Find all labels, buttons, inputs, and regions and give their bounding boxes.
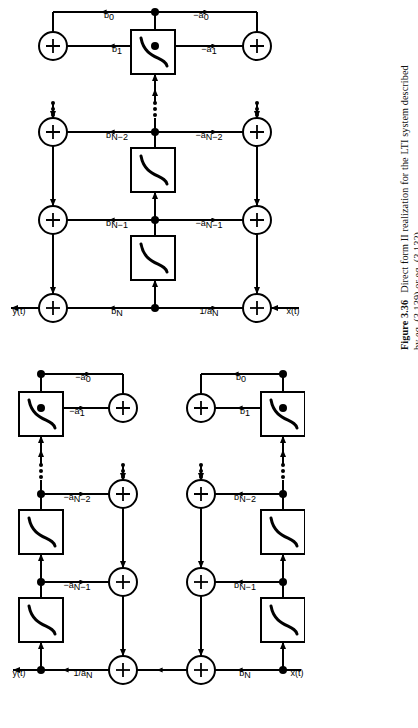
adder [109, 568, 137, 596]
adder [109, 394, 137, 422]
direct-form-i-diagram: 1/aN −aN−1 −aN−2 −a1 −a0 bN bN−1 bN−2 b1… [5, 366, 305, 706]
figure-3-36-caption-line-2: by eq. (3.139) or eq. (3.132). [411, 229, 418, 350]
figure-3-36-block: bN 1/aN bN−1 −aN−1 bN−2 −aN−2 b1 −a1 b0 … [0, 0, 418, 364]
adder [39, 294, 67, 322]
figure-3-35-diagram-rotation-stage: 1/aN −aN−1 −aN−2 −a1 −a0 bN bN−1 bN−2 b1… [5, 366, 305, 706]
gain-label-b0: b0 [236, 372, 246, 384]
adder [39, 206, 67, 234]
gain-label-minus-a0: −a0 [75, 372, 90, 384]
adder [109, 656, 137, 684]
adder [187, 394, 215, 422]
adders [109, 394, 215, 684]
gain-label-bN-1: bN−1 [234, 580, 256, 592]
integrator-boxes [131, 30, 175, 280]
gain-label-inv-aN: 1/aN [199, 306, 218, 318]
integrator-block [19, 392, 63, 436]
figure-3-36-caption-line-1: Figure 3.36Direct form II realization fo… [398, 65, 411, 350]
integrator-block [261, 598, 305, 642]
adder [187, 480, 215, 508]
gain-label-minus-a0: −a0 [193, 10, 208, 22]
gain-label-minus-a1: −a1 [201, 44, 216, 56]
input-label-xt: x(t) [291, 668, 304, 678]
gain-label-bN-2: bN−2 [234, 492, 256, 504]
gain-label-bN: bN [239, 668, 251, 680]
integrator-block [261, 510, 305, 554]
gain-label-minus-aN-1: −aN−1 [195, 218, 222, 230]
gain-labels: 1/aN −aN−1 −aN−2 −a1 −a0 bN bN−1 bN−2 b1… [63, 372, 255, 680]
integrator-block [19, 598, 63, 642]
gain-label-bN-2: bN−2 [106, 130, 128, 142]
integrator-boxes-feedback [19, 392, 63, 642]
ellipsis-dots [51, 101, 259, 117]
integrator-block [131, 30, 175, 74]
ellipsis-dots [39, 463, 285, 479]
gain-label-bN-1: bN−1 [106, 218, 128, 230]
gain-label-minus-aN-2: −aN−2 [195, 130, 222, 142]
figure-3-35-block: 1/aN −aN−1 −aN−2 −a1 −a0 bN bN−1 bN−2 b1… [0, 364, 418, 728]
scanned-textbook-page: bN 1/aN bN−1 −aN−1 bN−2 −aN−2 b1 −a1 b0 … [0, 0, 418, 728]
adder [187, 656, 215, 684]
input-label-xt: x(t) [287, 306, 300, 316]
gain-label-bN: bN [111, 306, 123, 318]
direct-form-ii-diagram: bN 1/aN bN−1 −aN−1 bN−2 −aN−2 b1 −a1 b0 … [5, 2, 305, 342]
integrator-block [131, 236, 175, 280]
gain-label-minus-a1: −a1 [69, 406, 84, 418]
integrator-boxes-feedforward [261, 392, 305, 642]
gain-label-b1: b1 [240, 406, 250, 418]
figure-3-36-caption-text-1: Direct form II realization for the LTI s… [399, 65, 410, 293]
gain-label-b1: b1 [112, 44, 122, 56]
adder [243, 118, 271, 146]
integrator-block [261, 392, 305, 436]
integrator-block [131, 148, 175, 192]
adder [243, 294, 271, 322]
adder [109, 480, 137, 508]
gain-label-minus-aN-1: −aN−1 [63, 580, 90, 592]
output-label-yt: y(t) [13, 668, 26, 678]
figure-3-36-number: Figure 3.36 [399, 300, 410, 350]
adder [243, 206, 271, 234]
output-label-yt: y(t) [13, 306, 26, 316]
gain-label-b0: b0 [104, 10, 114, 22]
integrator-block [19, 510, 63, 554]
adder [39, 32, 67, 60]
adder [243, 32, 271, 60]
figure-3-36-diagram-rotation-stage: bN 1/aN bN−1 −aN−1 bN−2 −aN−2 b1 −a1 b0 … [5, 2, 305, 342]
gain-label-inv-aN: 1/aN [73, 668, 92, 680]
adder [187, 568, 215, 596]
adder [39, 118, 67, 146]
gain-label-minus-aN-2: −aN−2 [63, 492, 90, 504]
